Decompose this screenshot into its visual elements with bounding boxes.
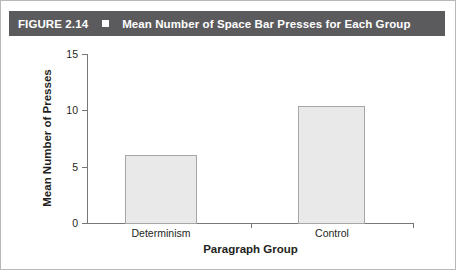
x-axis-tick — [251, 223, 252, 228]
x-axis-category-label-control: Control — [284, 227, 380, 239]
y-axis-tick — [82, 167, 87, 168]
y-axis-tick — [82, 54, 87, 55]
y-axis-line — [87, 54, 88, 224]
y-axis-tick-label: 10 — [54, 104, 78, 116]
bar-determinism[interactable] — [125, 155, 197, 224]
x-axis-tick — [413, 223, 414, 228]
y-axis-tick-label: 15 — [54, 48, 78, 60]
figure-container: FIGURE 2.14 Mean Number of Space Bar Pre… — [0, 0, 456, 270]
y-axis-title: Mean Number of Presses — [41, 48, 53, 228]
y-axis-tick — [82, 223, 87, 224]
bar-chart-plot: 15 10 5 0 Mean Number of Presses Determi… — [1, 1, 456, 270]
x-axis-title: Paragraph Group — [87, 243, 414, 255]
y-axis-tick-label: 0 — [54, 217, 78, 229]
x-axis-category-label-determinism: Determinism — [111, 227, 211, 239]
bar-control[interactable] — [298, 106, 365, 224]
y-axis-tick-label: 5 — [54, 161, 78, 173]
y-axis-tick — [82, 110, 87, 111]
